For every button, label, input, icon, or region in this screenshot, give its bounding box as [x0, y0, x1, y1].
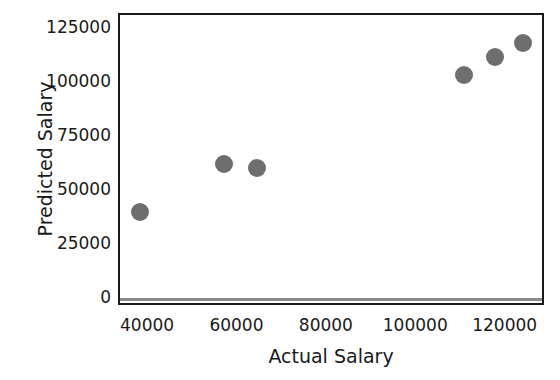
- y-tick-label: 75000: [0, 124, 111, 146]
- y-tick-mark: [118, 190, 120, 192]
- y-tick-label: 125000: [0, 16, 111, 38]
- data-point: [215, 155, 233, 173]
- x-axis-label: Actual Salary: [118, 345, 544, 367]
- x-tick-mark: [327, 303, 329, 305]
- data-point: [514, 34, 532, 52]
- y-tick-label: 25000: [0, 232, 111, 254]
- zero-reference-line: [120, 298, 542, 301]
- y-tick-mark: [118, 82, 120, 84]
- x-tick-mark: [506, 303, 508, 305]
- scatter-plot-figure: Predicted Salary 02500050000750001000001…: [0, 0, 560, 380]
- x-tick-mark: [237, 303, 239, 305]
- x-tick-mark: [416, 303, 418, 305]
- y-tick-mark: [118, 298, 120, 300]
- y-tick-mark: [118, 244, 120, 246]
- data-point: [455, 66, 473, 84]
- y-tick-label: 50000: [0, 178, 111, 200]
- data-point: [131, 203, 149, 221]
- plot-area: [118, 13, 544, 305]
- data-point: [248, 159, 266, 177]
- x-tick-mark: [148, 303, 150, 305]
- x-tick-labels: 400006000080000100000120000: [118, 312, 544, 338]
- y-tick-labels: 0250005000075000100000125000: [0, 13, 111, 305]
- data-point: [486, 48, 504, 66]
- y-tick-label: 0: [0, 286, 111, 308]
- y-tick-mark: [118, 28, 120, 30]
- y-tick-label: 100000: [0, 70, 111, 92]
- x-tick-label: 120000: [445, 312, 560, 338]
- y-tick-mark: [118, 136, 120, 138]
